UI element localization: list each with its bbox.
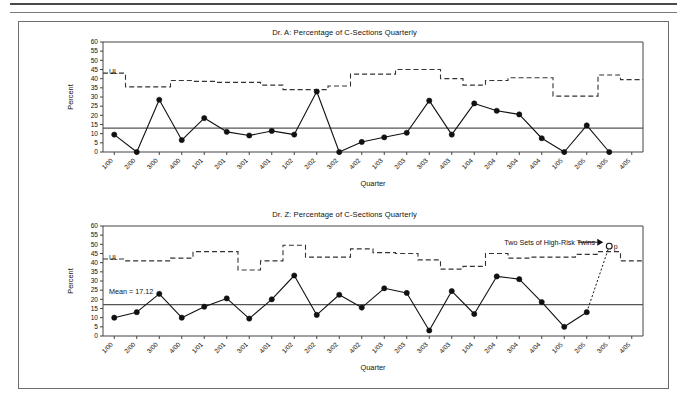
ul-control-limit-line (103, 70, 643, 97)
data-point-marker[interactable] (494, 108, 499, 113)
y-tick-label: 20 (91, 112, 99, 119)
x-tick-label: 1/00 (100, 340, 114, 354)
x-tick-label: 1/00 (100, 156, 114, 170)
data-point-marker[interactable] (494, 274, 499, 279)
data-point-marker[interactable] (607, 149, 612, 154)
data-point-marker[interactable] (134, 310, 139, 315)
x-tick-label: 2/00 (123, 340, 137, 354)
x-tick-label: 1/01 (190, 340, 204, 354)
x-axis-title: Quarter (360, 179, 386, 188)
x-tick-label: 3/02 (325, 156, 339, 170)
x-tick-label: 3/05 (595, 340, 609, 354)
data-point-marker[interactable] (517, 277, 522, 282)
data-point-marker[interactable] (314, 312, 319, 317)
data-point-marker[interactable] (202, 304, 207, 309)
x-tick-label: 2/03 (393, 340, 407, 354)
data-point-marker[interactable] (224, 296, 229, 301)
data-point-marker[interactable] (337, 292, 342, 297)
y-tick-label: 25 (91, 102, 99, 109)
data-point-marker[interactable] (584, 123, 589, 128)
data-point-marker[interactable] (382, 286, 387, 291)
data-point-marker[interactable] (224, 129, 229, 134)
ul-label: UL (109, 254, 118, 261)
data-point-marker[interactable] (157, 97, 162, 102)
y-tick-label: 15 (91, 121, 99, 128)
x-tick-label: 2/00 (123, 156, 137, 170)
y-tick-label: 45 (91, 66, 99, 73)
annotation-arrow-icon (597, 239, 603, 246)
y-tick-label: 20 (91, 296, 99, 303)
annotation-connector-line (587, 246, 610, 312)
y-tick-label: 55 (91, 47, 99, 54)
y-tick-label: 45 (91, 250, 99, 257)
data-point-marker[interactable] (404, 290, 409, 295)
data-point-marker[interactable] (292, 132, 297, 137)
data-point-marker[interactable] (247, 316, 252, 321)
data-point-marker[interactable] (427, 328, 432, 333)
y-tick-label: 0 (94, 332, 98, 339)
data-point-marker[interactable] (202, 115, 207, 120)
x-tick-label: 2/05 (573, 156, 587, 170)
data-point-marker[interactable] (427, 98, 432, 103)
y-tick-label: 40 (91, 259, 99, 266)
data-point-marker[interactable] (472, 101, 477, 106)
x-tick-label: 1/04 (460, 340, 474, 354)
data-point-marker[interactable] (269, 128, 274, 133)
data-point-marker[interactable] (517, 112, 522, 117)
data-point-marker[interactable] (539, 299, 544, 304)
y-tick-label: 5 (94, 323, 98, 330)
plot-svg-dr-a: 0510152025303540455055601/002/003/004/00… (19, 28, 670, 206)
y-tick-label: 60 (91, 222, 99, 229)
data-point-marker[interactable] (337, 149, 342, 154)
y-tick-label: 35 (91, 84, 99, 91)
x-tick-label: 4/03 (438, 340, 452, 354)
x-tick-label: 4/05 (618, 156, 632, 170)
data-point-marker[interactable] (179, 315, 184, 320)
data-point-marker[interactable] (539, 136, 544, 141)
y-tick-label: 50 (91, 241, 99, 248)
data-point-marker[interactable] (269, 297, 274, 302)
x-tick-label: 1/05 (550, 340, 564, 354)
data-point-marker[interactable] (112, 315, 117, 320)
plot-svg-dr-z: 0510152025303540455055601/002/003/004/00… (19, 210, 670, 390)
data-point-marker[interactable] (449, 132, 454, 137)
data-point-marker[interactable] (359, 305, 364, 310)
data-point-marker[interactable] (404, 130, 409, 135)
x-tick-label: 3/04 (505, 340, 519, 354)
x-tick-label: 3/00 (145, 156, 159, 170)
x-tick-label: 1/01 (190, 156, 204, 170)
figure-page: Dr. A: Percentage of C-Sections Quarterl… (0, 0, 687, 405)
data-point-marker[interactable] (292, 273, 297, 278)
x-tick-label: 2/01 (213, 156, 227, 170)
data-point-marker[interactable] (562, 149, 567, 154)
plot-area-dr-a: 0510152025303540455055601/002/003/004/00… (19, 28, 670, 206)
data-point-marker[interactable] (562, 324, 567, 329)
x-tick-label: 3/03 (415, 156, 429, 170)
x-tick-label: 2/02 (303, 340, 317, 354)
data-point-marker[interactable] (134, 149, 139, 154)
y-tick-label: 10 (91, 314, 99, 321)
y-tick-label: 60 (91, 38, 99, 45)
data-point-marker[interactable] (157, 291, 162, 296)
x-tick-label: 4/05 (618, 340, 632, 354)
plot-area-dr-z: 0510152025303540455055601/002/003/004/00… (19, 210, 670, 390)
data-point-marker[interactable] (382, 135, 387, 140)
figure-frame: Dr. A: Percentage of C-Sections Quarterl… (18, 21, 669, 389)
x-tick-label: 1/04 (460, 156, 474, 170)
data-point-marker[interactable] (449, 288, 454, 293)
mean-label: Mean = 17.12 (109, 287, 153, 296)
y-tick-label: 30 (91, 93, 99, 100)
annotated-data-point-marker[interactable] (606, 243, 612, 249)
data-point-marker[interactable] (472, 311, 477, 316)
data-point-marker[interactable] (359, 139, 364, 144)
x-tick-label: 4/03 (438, 156, 452, 170)
data-point-marker[interactable] (112, 132, 117, 137)
data-point-marker[interactable] (314, 89, 319, 94)
y-tick-label: 35 (91, 268, 99, 275)
x-tick-label: 2/01 (213, 340, 227, 354)
x-tick-label: 2/05 (573, 340, 587, 354)
data-point-marker[interactable] (179, 137, 184, 142)
annotated-point-label: p (614, 243, 618, 251)
x-tick-label: 3/05 (595, 156, 609, 170)
data-point-marker[interactable] (247, 133, 252, 138)
